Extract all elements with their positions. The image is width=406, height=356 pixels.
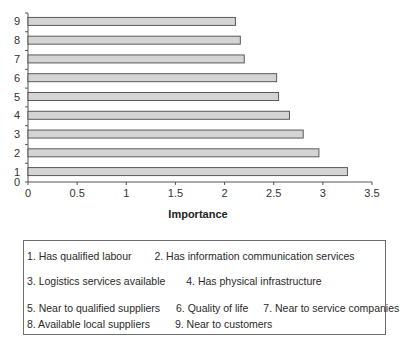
y-category-label: 5: [14, 91, 20, 103]
legend-item-8: 8. Available local suppliers: [27, 318, 150, 330]
y-category-label: 9: [14, 15, 20, 27]
legend-item-3: 3. Logistics services available: [27, 275, 165, 287]
y-category-label: 1: [14, 166, 20, 178]
legend-item-5: 5. Near to qualified suppliers: [27, 302, 160, 314]
legend-item-1: 1. Has qualified labour: [27, 250, 131, 262]
legend-item-4: 4. Has physical infrastructure: [186, 275, 321, 287]
x-tick-label: 0.5: [69, 187, 84, 199]
legend-item-7: 7. Near to service companies: [263, 302, 399, 314]
y-category-label: 6: [14, 72, 20, 84]
x-tick-label: 1: [123, 187, 129, 199]
legend-item-9: 9. Near to customers: [175, 318, 272, 330]
bar-9: [28, 17, 235, 25]
bar-chart: 00.511.522.533.50123456789Importance: [0, 0, 406, 235]
y-category-label: 3: [14, 128, 20, 140]
legend-item-2: 2. Has information communication service…: [154, 250, 354, 262]
bar-7: [28, 55, 244, 63]
x-axis-title: Importance: [168, 208, 227, 220]
legend-box: 1. Has qualified labour 2. Has informati…: [23, 240, 386, 335]
bar-1: [28, 168, 347, 176]
x-tick-label: 1.5: [168, 187, 183, 199]
x-tick-label: 2: [222, 187, 228, 199]
legend-row-1: 1. Has qualified labour 2. Has informati…: [27, 250, 355, 262]
bar-2: [28, 149, 319, 157]
bar-8: [28, 36, 240, 44]
legend-item-6: 6. Quality of life: [176, 302, 248, 314]
y-category-label: 2: [14, 147, 20, 159]
legend-row-2: 3. Logistics services available 4. Has p…: [27, 275, 322, 287]
x-tick-label: 0: [25, 187, 31, 199]
x-tick-label: 3.5: [364, 187, 379, 199]
legend-row-3: 5. Near to qualified suppliers 6. Qualit…: [27, 302, 399, 314]
bar-5: [28, 93, 279, 101]
bar-3: [28, 130, 303, 138]
y-category-label: 7: [14, 53, 20, 65]
x-tick-label: 2.5: [266, 187, 281, 199]
bar-6: [28, 74, 277, 82]
y-category-label: 4: [14, 109, 20, 121]
x-tick-label: 3: [320, 187, 326, 199]
y-tick-label: 0: [14, 176, 20, 188]
y-category-label: 8: [14, 34, 20, 46]
legend-row-4: 8. Available local suppliers 9. Near to …: [27, 318, 272, 330]
bar-4: [28, 111, 289, 119]
